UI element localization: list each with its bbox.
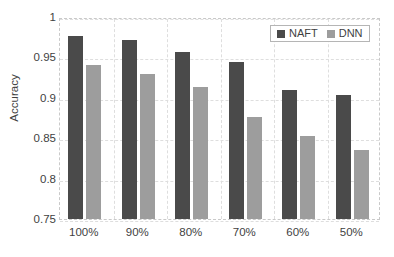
x-axis-tick-label: 60% (286, 226, 309, 238)
legend-label: NAFT (289, 28, 318, 39)
plot-area (59, 18, 380, 220)
x-axis-tick-labels: 100%90%80%70%60%50% (59, 226, 380, 246)
y-axis-title: Accuracy (8, 58, 20, 138)
y-axis-tick-label: 0.95 (22, 52, 56, 64)
legend-label: DNN (339, 28, 363, 39)
bar-naft-80pct (175, 52, 190, 219)
legend-entry-dnn: DNN (327, 28, 363, 39)
bar-chart: Accuracy 10.950.90.850.80.75 NAFTDNN 100… (0, 0, 394, 257)
y-axis-tick-label: 0.75 (22, 214, 56, 226)
y-axis-tick-label: 1 (22, 12, 56, 24)
chart-legend: NAFTDNN (270, 25, 370, 42)
bar-naft-50pct (336, 95, 351, 219)
y-axis-tick-label: 0.8 (22, 174, 56, 186)
y-axis-tick-labels: 10.950.90.850.80.75 (20, 0, 56, 257)
x-axis-tick-label: 100% (69, 226, 98, 238)
gridline-horizontal (60, 221, 379, 222)
bar-naft-90pct (122, 40, 137, 219)
bar-naft-100pct (68, 36, 83, 219)
legend-swatch-icon (327, 30, 335, 38)
legend-entry-naft: NAFT (277, 28, 318, 39)
bar-dnn-60pct (300, 136, 315, 219)
bar-dnn-100pct (86, 65, 101, 219)
bar-naft-60pct (282, 90, 297, 219)
x-axis-tick-label: 80% (179, 226, 202, 238)
bar-dnn-80pct (193, 87, 208, 220)
bar-dnn-50pct (354, 150, 369, 219)
bar-dnn-70pct (247, 117, 262, 219)
x-axis-tick-label: 50% (340, 226, 363, 238)
bars-layer (60, 19, 379, 219)
bar-dnn-90pct (140, 74, 155, 219)
y-axis-tick-label: 0.9 (22, 93, 56, 105)
x-axis-tick-label: 70% (233, 226, 256, 238)
x-axis-tick-label: 90% (126, 226, 149, 238)
bar-naft-70pct (229, 62, 244, 219)
legend-swatch-icon (277, 30, 285, 38)
y-axis-tick-label: 0.85 (22, 133, 56, 145)
